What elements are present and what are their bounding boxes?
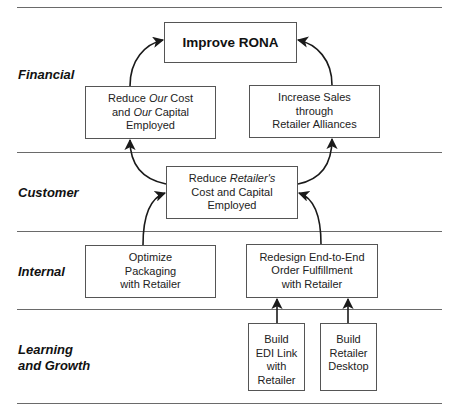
financial-customer-divider [17,152,442,153]
perspective-learning-line2: and Growth [18,358,90,374]
reduce-retailer-cost-line1: Reduce Retailer's [189,172,276,186]
optimize-packaging-line2: Packaging [120,265,181,279]
arrow-retailer-cost-to-sales [298,139,332,184]
build-desktop-line2: Retailer [328,347,368,361]
arrow-fulfillment-to-retailer-cost [299,193,321,244]
build-edi-line3: with [256,360,298,374]
perspective-learning-line1: Learning [18,342,90,358]
objective-reduce-retailer-cost: Reduce Retailer's Cost and Capital Emplo… [166,166,298,219]
reduce-retailer-cost-line3: Employed [189,199,276,213]
arrow-reduce-cost-to-rona [130,40,163,86]
perspective-internal: Internal [18,264,65,280]
objective-increase-sales: Increase Sales through Retailer Alliance… [249,85,380,138]
build-desktop-line3: Desktop [328,360,368,374]
perspective-learning-growth: Learning and Growth [18,342,90,374]
perspective-financial: Financial [18,67,74,83]
redesign-fulfillment-line2: Order Fulfillment [259,264,364,278]
reduce-our-cost-line3: Employed [108,119,193,133]
increase-sales-line3: Retailer Alliances [272,118,356,132]
arrow-retailer-cost-to-our-cost [130,140,166,184]
redesign-fulfillment-line3: with Retailer [259,278,364,292]
reduce-our-cost-line1: Reduce Our Cost [108,92,193,106]
top-rule [17,7,442,8]
internal-learning-divider [17,309,442,310]
objective-reduce-our-cost: Reduce Our Cost and Our Capital Employed [85,86,216,139]
build-edi-line2: EDI Link [256,347,298,361]
objective-build-retailer-desktop: Build Retailer Desktop [320,323,377,391]
objective-optimize-packaging: Optimize Packaging with Retailer [85,245,216,298]
perspective-customer: Customer [18,185,79,201]
bottom-rule [17,403,442,404]
increase-sales-line1: Increase Sales [272,91,356,105]
build-edi-line4: Retailer [256,374,298,388]
redesign-fulfillment-line1: Redesign End-to-End [259,251,364,265]
objective-improve-rona: Improve RONA [164,22,297,63]
build-edi-line1: Build [256,333,298,347]
objective-build-edi-link: Build EDI Link with Retailer [248,323,305,391]
objective-improve-rona-label: Improve RONA [182,36,278,50]
optimize-packaging-line1: Optimize [120,251,181,265]
customer-internal-divider [17,231,442,232]
reduce-our-cost-line2: and Our Capital [108,106,193,120]
build-desktop-line1: Build [328,333,368,347]
objective-redesign-fulfillment: Redesign End-to-End Order Fulfillment wi… [246,244,378,298]
arrow-packaging-to-retailer-cost [143,193,165,245]
arrow-increase-sales-to-rona [298,40,332,85]
increase-sales-line2: through [272,105,356,119]
optimize-packaging-line3: with Retailer [120,278,181,292]
reduce-retailer-cost-line2: Cost and Capital [189,186,276,200]
